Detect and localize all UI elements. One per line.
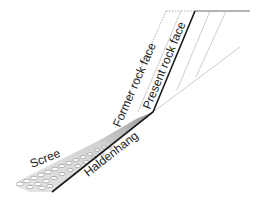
retreat-line-3 bbox=[196, 11, 226, 77]
slope-diagram: Former rock face Present rock face Scree… bbox=[0, 0, 263, 203]
scree-wedge bbox=[16, 112, 153, 192]
